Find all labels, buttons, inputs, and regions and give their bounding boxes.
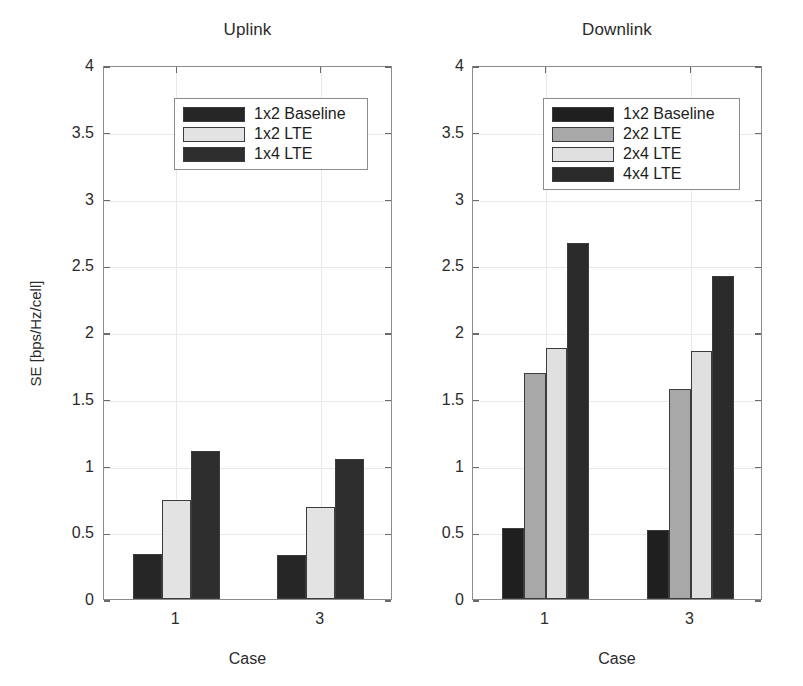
y-tick-label: 1 xyxy=(85,458,94,476)
legend-downlink[interactable]: 1x2 Baseline2x2 LTE2x4 LTE4x4 LTE xyxy=(543,98,740,190)
y-axis-tick xyxy=(473,133,479,134)
y-axis-tick xyxy=(385,200,391,201)
y-axis-tick xyxy=(104,66,110,67)
y-tick-label: 2 xyxy=(455,324,464,342)
y-axis-tick xyxy=(104,333,110,334)
bar xyxy=(133,554,162,599)
y-tick-label: 1.5 xyxy=(72,391,94,409)
chart-title-uplink: Uplink xyxy=(103,20,392,40)
legend-swatch-icon xyxy=(183,107,245,122)
bar xyxy=(546,348,568,599)
y-axis-tick xyxy=(473,534,479,535)
y-tick-label: 0.5 xyxy=(72,524,94,542)
gridline-horizontal xyxy=(104,334,391,335)
legend-label: 4x4 LTE xyxy=(623,166,681,182)
legend-label: 1x2 LTE xyxy=(254,126,312,142)
y-tick-label: 2.5 xyxy=(72,257,94,275)
y-axis-title-uplink: SE [bps/Hz/cell] xyxy=(27,254,44,414)
y-axis-tick xyxy=(473,66,479,67)
y-tick-label: 3.5 xyxy=(72,124,94,142)
x-axis-title-uplink: Case xyxy=(103,650,392,668)
legend-label: 1x2 Baseline xyxy=(623,106,715,122)
bar xyxy=(306,507,335,599)
y-tick-label: 3.5 xyxy=(442,124,464,142)
y-tick-label: 3 xyxy=(455,191,464,209)
legend-label: 2x4 LTE xyxy=(623,146,681,162)
gridline-horizontal xyxy=(473,201,761,202)
bar xyxy=(277,555,306,599)
y-axis-tick xyxy=(755,333,761,334)
y-tick-label: 0.5 xyxy=(442,524,464,542)
gridline-horizontal xyxy=(104,267,391,268)
gridline-horizontal xyxy=(473,267,761,268)
y-axis-tick xyxy=(755,66,761,67)
y-tick-label: 1 xyxy=(455,458,464,476)
legend-label: 1x4 LTE xyxy=(254,146,312,162)
y-tick-label: 4 xyxy=(455,57,464,75)
bar xyxy=(712,276,734,599)
y-axis-tick xyxy=(473,267,479,268)
legend-uplink[interactable]: 1x2 Baseline1x2 LTE1x4 LTE xyxy=(174,98,368,170)
x-axis-tick xyxy=(176,67,177,73)
legend-item[interactable]: 1x2 Baseline xyxy=(183,104,360,124)
y-axis-tick xyxy=(385,66,391,67)
bar xyxy=(567,243,589,599)
legend-swatch-icon xyxy=(552,147,614,162)
legend-item[interactable]: 1x2 Baseline xyxy=(552,104,732,124)
y-axis-tick xyxy=(104,267,110,268)
legend-item[interactable]: 1x2 LTE xyxy=(183,124,360,144)
legend-swatch-icon xyxy=(183,147,245,162)
y-axis-tick xyxy=(473,200,479,201)
x-axis-tick xyxy=(690,67,691,73)
chart-panel-downlink: Downlink Case 00.511.522.533.54 13 1x2 B… xyxy=(400,20,803,680)
x-tick-label: 3 xyxy=(315,610,324,628)
legend-item[interactable]: 2x2 LTE xyxy=(552,124,732,144)
y-axis-tick xyxy=(104,200,110,201)
bar xyxy=(162,500,191,599)
bar xyxy=(191,451,220,599)
x-axis-tick xyxy=(545,67,546,73)
legend-swatch-icon xyxy=(552,107,614,122)
bar xyxy=(335,459,364,599)
y-tick-label: 2.5 xyxy=(442,257,464,275)
y-axis-tick xyxy=(473,600,479,601)
bar xyxy=(502,528,524,599)
gridline-horizontal xyxy=(104,401,391,402)
chart-title-downlink: Downlink xyxy=(472,20,762,40)
legend-label: 2x2 LTE xyxy=(623,126,681,142)
y-axis-tick xyxy=(104,600,110,601)
x-tick-label: 3 xyxy=(685,610,694,628)
y-axis-tick xyxy=(385,600,391,601)
y-axis-tick xyxy=(473,400,479,401)
y-axis-tick xyxy=(385,133,391,134)
y-axis-tick xyxy=(755,200,761,201)
legend-item[interactable]: 2x4 LTE xyxy=(552,144,732,164)
y-axis-tick xyxy=(473,333,479,334)
y-axis-tick xyxy=(104,133,110,134)
y-axis-tick xyxy=(385,267,391,268)
y-axis-tick xyxy=(385,400,391,401)
legend-swatch-icon xyxy=(552,127,614,142)
y-tick-label: 3 xyxy=(85,191,94,209)
y-tick-labels-downlink: 00.511.522.533.54 xyxy=(422,66,464,600)
y-axis-tick xyxy=(755,600,761,601)
y-tick-label: 4 xyxy=(85,57,94,75)
chart-panel-uplink: Uplink Case SE [bps/Hz/cell] 00.511.522.… xyxy=(0,20,400,680)
y-axis-tick xyxy=(755,534,761,535)
y-axis-tick xyxy=(473,467,479,468)
y-tick-label: 1.5 xyxy=(442,391,464,409)
y-tick-labels-uplink: 00.511.522.533.54 xyxy=(52,66,94,600)
x-axis-title-downlink: Case xyxy=(472,650,762,668)
legend-item[interactable]: 1x4 LTE xyxy=(183,144,360,164)
y-axis-tick xyxy=(755,467,761,468)
y-axis-tick xyxy=(385,333,391,334)
y-axis-tick xyxy=(104,400,110,401)
bar xyxy=(524,373,546,599)
y-axis-tick xyxy=(755,400,761,401)
y-axis-tick xyxy=(104,467,110,468)
legend-item[interactable]: 4x4 LTE xyxy=(552,164,732,184)
bar xyxy=(669,389,691,599)
y-axis-tick xyxy=(755,133,761,134)
y-tick-label: 0 xyxy=(85,591,94,609)
figure-canvas: Uplink Case SE [bps/Hz/cell] 00.511.522.… xyxy=(0,0,803,686)
